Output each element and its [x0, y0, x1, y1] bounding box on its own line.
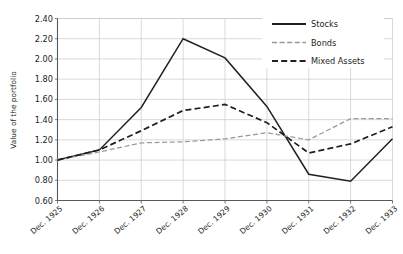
- chart-container: 0.600.801.001.201.401.601.802.002.202.40…: [0, 0, 403, 254]
- y-tick-label: 0.80: [35, 175, 53, 185]
- y-tick-label: 1.00: [35, 155, 53, 165]
- y-tick-label: 2.40: [35, 14, 53, 24]
- y-tick-label: 1.40: [35, 115, 53, 125]
- y-axis-title: Value of the portfolio: [9, 71, 18, 149]
- portfolio-value-line-chart: 0.600.801.001.201.401.601.802.002.202.40…: [0, 0, 403, 254]
- y-tick-label: 2.00: [35, 54, 53, 64]
- chart-legend: StocksBondsMixed Assets: [262, 13, 384, 68]
- y-tick-label: 2.20: [35, 34, 53, 44]
- y-tick-label: 0.60: [35, 196, 53, 206]
- y-tick-label: 1.60: [35, 94, 53, 104]
- y-tick-label: 1.20: [35, 135, 53, 145]
- legend-label-stocks: Stocks: [311, 19, 338, 29]
- legend-label-mixed-assets: Mixed Assets: [311, 56, 364, 66]
- legend-label-bonds: Bonds: [311, 38, 336, 48]
- y-tick-label: 1.80: [35, 74, 53, 84]
